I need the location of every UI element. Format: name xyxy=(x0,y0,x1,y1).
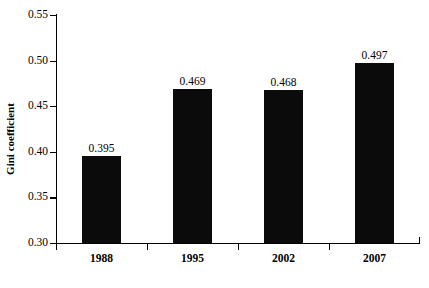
bar-value-label: 0.469 xyxy=(158,75,228,87)
bar-value-label: 0.395 xyxy=(67,142,137,154)
bar-2002 xyxy=(264,90,303,243)
x-tick-mark xyxy=(56,244,57,250)
y-tick-label: 0.55 xyxy=(14,9,48,21)
y-tick-label: 0.40 xyxy=(14,146,48,158)
bar-2007 xyxy=(355,63,394,243)
x-tick-mark xyxy=(147,244,148,250)
y-tick-label: 0.35 xyxy=(14,191,48,203)
x-axis-end-tick xyxy=(419,237,420,244)
bar-1995 xyxy=(173,89,212,243)
y-tick-label: 0.50 xyxy=(14,55,48,67)
x-tick-label-2007: 2007 xyxy=(340,252,410,265)
y-tick-mark xyxy=(50,152,56,153)
x-tick-label-1988: 1988 xyxy=(67,252,137,265)
bar-value-label: 0.497 xyxy=(340,49,410,61)
y-tick-mark xyxy=(50,61,56,62)
x-tick-mark xyxy=(329,244,330,250)
bar-chart: Gini coefficient 0.55 0.50 0.45 0.40 0.3… xyxy=(0,0,429,288)
y-tick-mark xyxy=(50,106,56,107)
bar-value-label: 0.468 xyxy=(249,76,319,88)
y-tick-label: 0.45 xyxy=(14,100,48,112)
y-axis-line xyxy=(56,14,57,244)
bar-1988 xyxy=(82,156,121,243)
y-tick-label: 0.30 xyxy=(14,237,48,249)
x-tick-label-1995: 1995 xyxy=(158,252,228,265)
y-tick-mark xyxy=(50,15,56,16)
x-tick-mark xyxy=(238,244,239,250)
x-tick-label-2002: 2002 xyxy=(249,252,319,265)
y-tick-mark xyxy=(50,197,56,198)
